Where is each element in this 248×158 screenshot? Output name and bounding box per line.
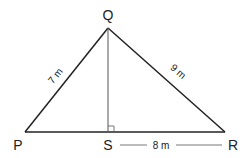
measure-qr: 9 m [168, 62, 188, 81]
side-qr [108, 28, 225, 132]
vertex-label-r: R [228, 137, 238, 153]
measure-pq: 7 m [46, 66, 65, 86]
measure-sr: 8 m [153, 140, 170, 151]
vertex-label-s: S [103, 137, 112, 153]
side-pq [25, 28, 108, 132]
right-angle-marker [108, 126, 114, 132]
vertex-label-q: Q [103, 7, 114, 23]
triangle-diagram: Q P S R 7 m 9 m 8 m [0, 0, 248, 158]
vertex-label-p: P [13, 137, 22, 153]
